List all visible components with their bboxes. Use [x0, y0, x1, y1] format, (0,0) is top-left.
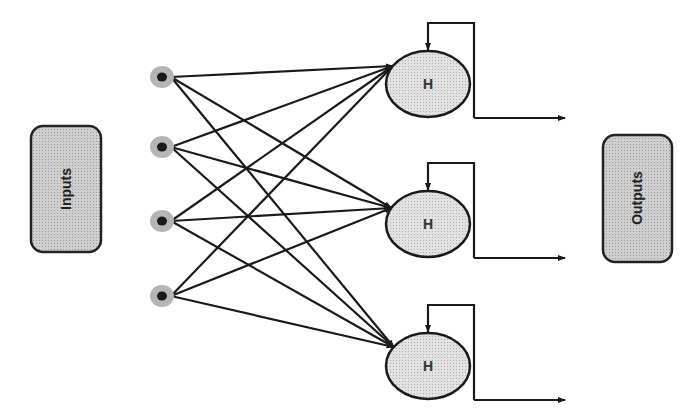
rnn-diagram: Inputs Outputs HHH — [0, 0, 696, 415]
input-node — [150, 66, 174, 88]
connection-line — [171, 77, 391, 208]
outputs-label: Outputs — [629, 171, 645, 225]
hidden-node-label: H — [423, 358, 433, 374]
input-node-core — [157, 292, 167, 301]
connection-line — [171, 66, 393, 147]
connection-line — [171, 66, 393, 296]
input-node-core — [157, 73, 167, 82]
input-layer — [150, 66, 174, 307]
connection-line — [171, 77, 394, 347]
input-node-core — [157, 217, 167, 226]
connection-line — [171, 66, 393, 221]
hidden-node: H — [386, 23, 565, 118]
input-node — [150, 136, 174, 158]
hidden-layer: HHH — [386, 23, 565, 400]
connection-line — [171, 66, 393, 77]
inputs-label: Inputs — [58, 168, 74, 210]
connection-line — [171, 296, 394, 347]
input-node-core — [157, 143, 167, 152]
outputs-box: Outputs — [603, 135, 672, 262]
hidden-node-label: H — [423, 76, 433, 92]
hidden-node: H — [386, 163, 565, 258]
input-node — [150, 285, 174, 307]
connection-line — [171, 221, 394, 347]
connections — [171, 66, 394, 347]
input-node — [150, 210, 174, 232]
hidden-node-label: H — [423, 216, 433, 232]
hidden-node: H — [386, 305, 565, 400]
inputs-box: Inputs — [31, 126, 101, 252]
